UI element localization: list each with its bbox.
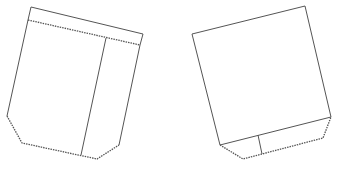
left-zigzag-bottom <box>7 116 119 159</box>
left-outline-right <box>119 45 140 145</box>
right-pocket-pattern <box>192 6 331 159</box>
right-zigzag-bottom <box>220 117 331 159</box>
diagram-canvas <box>0 0 337 170</box>
right-outline <box>192 6 331 145</box>
left-divider <box>81 38 106 155</box>
left-outline-top <box>28 7 143 45</box>
left-zigzag-band <box>28 20 140 45</box>
left-outline-sides <box>7 20 28 116</box>
right-divider <box>258 135 262 154</box>
left-pocket-pattern <box>7 7 143 159</box>
